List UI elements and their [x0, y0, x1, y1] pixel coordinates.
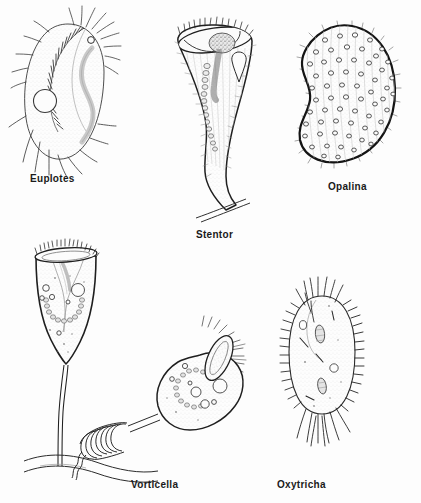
organism-vorticella-contracted [72, 316, 246, 480]
vorticella-stalk-extended [58, 365, 68, 466]
illustration-canvas [0, 0, 421, 503]
label-oxytricha: Oxytricha [277, 479, 326, 490]
organism-oxytricha [280, 277, 364, 446]
label-opalina: Opalina [328, 181, 367, 192]
label-euplotes: Euplotes [30, 173, 75, 184]
label-stentor: Stentor [196, 229, 233, 240]
oxytricha-body [289, 296, 355, 414]
stentor-gullet [209, 33, 235, 53]
organism-stentor [175, 17, 256, 222]
euplotes-small-vacuole [88, 37, 95, 44]
euplotes-contractile-vacuole [34, 90, 57, 113]
organism-opalina [295, 21, 401, 168]
label-vorticella: Vorticella [131, 479, 178, 490]
protozoa-illustration-figure: Euplotes Stentor Opalina Vorticella Oxyt… [0, 0, 421, 503]
stentor-interior [177, 23, 254, 172]
organism-euplotes [9, 6, 121, 177]
